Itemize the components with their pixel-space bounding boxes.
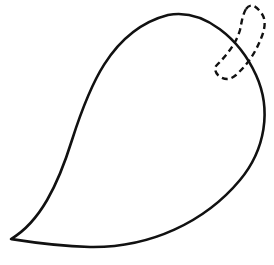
leaf-outline bbox=[11, 14, 265, 247]
stem-dashed bbox=[215, 6, 264, 79]
leaf-drawing bbox=[0, 0, 274, 265]
